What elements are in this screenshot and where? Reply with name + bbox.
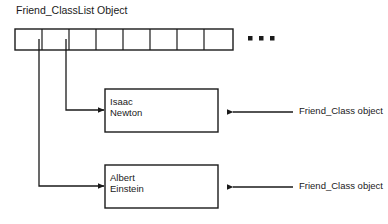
array-title-label: Friend_ClassList Object bbox=[16, 4, 127, 16]
array-ellipsis-marker bbox=[248, 36, 275, 41]
annotation-label-newton: Friend_Class object bbox=[299, 105, 383, 116]
array-outline bbox=[15, 29, 233, 50]
node-einstein-last-name: Einstein bbox=[110, 183, 144, 194]
diagram-canvas: Friend_ClassList Object Isaac Newton Alb… bbox=[0, 0, 388, 224]
node-einstein-first-name: Albert bbox=[110, 172, 135, 183]
annotation-label-einstein: Friend_Class object bbox=[299, 180, 383, 191]
ellipsis-dot-3 bbox=[270, 36, 275, 41]
pointer-cell1-to-einstein bbox=[39, 39, 104, 186]
array-container bbox=[15, 29, 233, 50]
ellipsis-dot-1 bbox=[248, 36, 253, 41]
node-newton-last-name: Newton bbox=[110, 107, 142, 118]
ellipsis-dot-2 bbox=[259, 36, 264, 41]
node-newton-first-name: Isaac bbox=[110, 96, 133, 107]
